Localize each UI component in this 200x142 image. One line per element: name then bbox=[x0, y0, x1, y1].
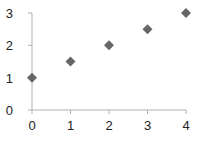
x-axis-ticks: 01234 bbox=[28, 110, 189, 133]
y-axis-ticks: 0123 bbox=[6, 6, 32, 118]
y-tick-label: 1 bbox=[6, 71, 13, 86]
x-tick-label: 0 bbox=[28, 118, 35, 133]
x-tick-label: 3 bbox=[144, 118, 151, 133]
diamond-marker bbox=[181, 8, 191, 18]
diamond-marker bbox=[104, 40, 114, 50]
diamond-marker bbox=[27, 73, 37, 83]
y-tick-label: 3 bbox=[6, 6, 13, 21]
diamond-marker bbox=[66, 57, 76, 67]
diamond-marker bbox=[143, 24, 153, 34]
x-tick-label: 4 bbox=[182, 118, 189, 133]
data-points bbox=[27, 8, 191, 83]
axes bbox=[32, 13, 186, 110]
x-tick-label: 1 bbox=[67, 118, 74, 133]
y-tick-label: 2 bbox=[6, 38, 13, 53]
x-tick-label: 2 bbox=[105, 118, 112, 133]
y-tick-label: 0 bbox=[6, 103, 13, 118]
scatter-chart: 0123 01234 bbox=[0, 0, 200, 142]
